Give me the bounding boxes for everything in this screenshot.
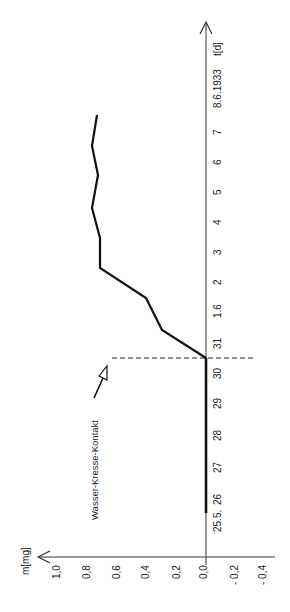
chart: Wasser-Kresse-Kontakt t[d] m[mg] 25.5. 2… (0, 0, 290, 612)
value-tick-label: 1,0 (51, 565, 62, 579)
time-tick-label: 31 (212, 337, 223, 349)
time-tick-label: 26 (212, 493, 223, 505)
time-tick-label: 27 (212, 461, 223, 473)
time-tick-label: 29 (212, 397, 223, 409)
time-tick-label: 28 (212, 429, 223, 441)
data-series-line (92, 115, 206, 358)
annotation-label: Wasser-Kresse-Kontakt (89, 420, 100, 520)
value-tick-label: 0,4 (140, 565, 151, 579)
value-axis-label: m[mg] (20, 547, 31, 575)
value-tick-label: 0,2 (171, 565, 182, 579)
time-tick-label: 30 (212, 367, 223, 379)
value-tick-label: 0,0 (198, 565, 209, 579)
time-tick-label: 1.6 (212, 304, 223, 318)
time-tick-label: 3 (212, 249, 223, 255)
time-tick-label: 6 (212, 159, 223, 165)
value-tick-labels: 1,0 0,8 0,6 0,4 0,2 0,0 - 0,2 - 0,4 (51, 565, 268, 585)
time-tick-labels: 25.5. 26 27 28 29 30 31 1.6 2 3 4 5 6 7 … (212, 69, 223, 532)
value-tick-label: 0,8 (81, 565, 92, 579)
value-tick-label: - 0,2 (229, 565, 240, 585)
time-tick-label: 5 (212, 189, 223, 195)
time-tick-label: 2 (212, 279, 223, 285)
value-tick-label: 0,6 (111, 565, 122, 579)
time-tick-label: 4 (212, 219, 223, 225)
time-tick-label: 8.6.1933 (212, 69, 223, 108)
annotation-arrow-icon (94, 366, 107, 398)
time-axis-label: t[d] (212, 42, 223, 56)
time-tick-label: 25.5. (212, 510, 223, 532)
value-tick-label: - 0,4 (257, 565, 268, 585)
time-tick-label: 7 (212, 129, 223, 135)
